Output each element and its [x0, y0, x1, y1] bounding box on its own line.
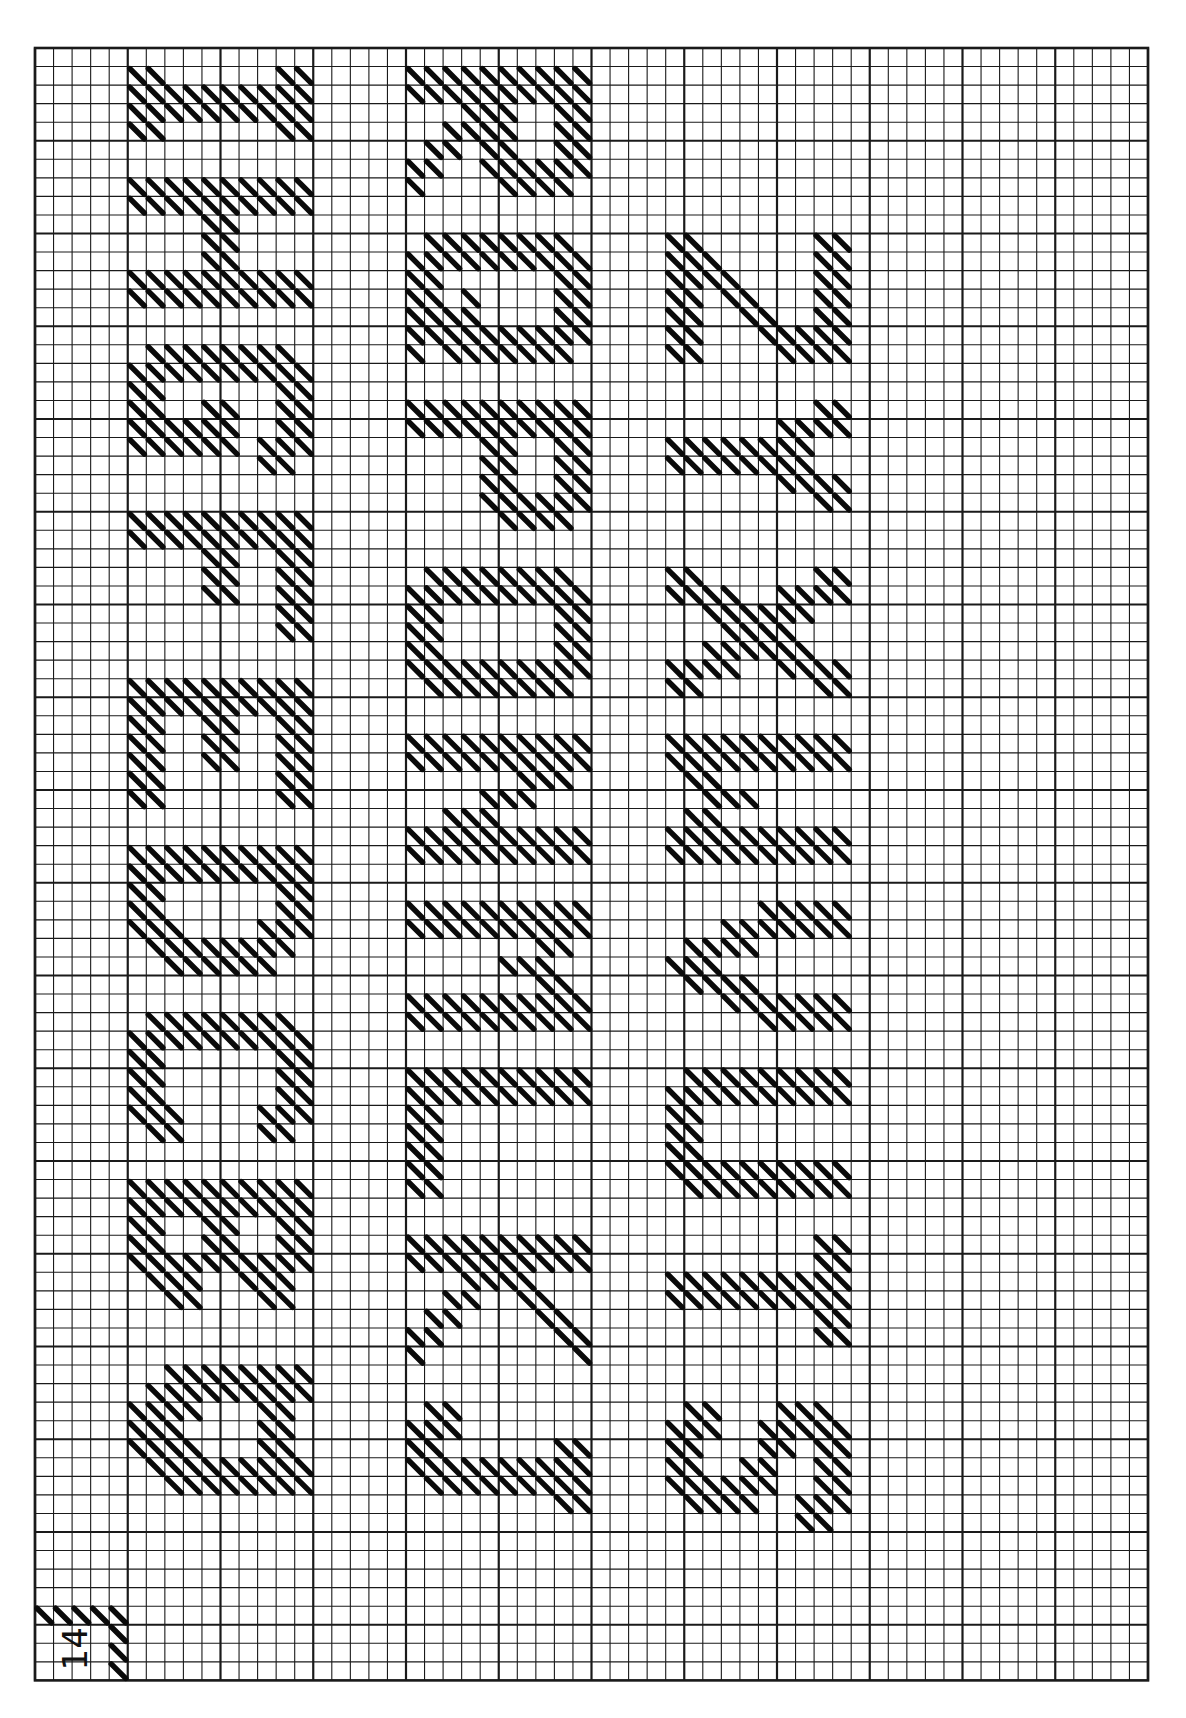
graph-grid: 14	[0, 0, 1186, 1718]
page-number-label: 14	[55, 1627, 95, 1670]
